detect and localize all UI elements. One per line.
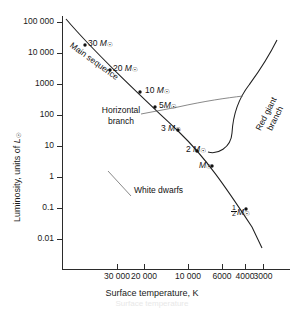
cut-off-caption: Surface temperature bbox=[0, 299, 304, 311]
mass-label-30-unit: M bbox=[100, 38, 107, 48]
mass-label-half-sub: ☉ bbox=[244, 210, 250, 217]
hr-diagram-figure: 100 000 10 000 1000 100 10 1 0.1 0.01 30… bbox=[0, 0, 304, 311]
mass-label-10-value: 10 bbox=[145, 85, 154, 95]
mass-label-5-sub: ☉ bbox=[171, 103, 177, 110]
mass-label-2-sub: ☉ bbox=[200, 147, 206, 154]
mass-label-10-unit: M bbox=[157, 85, 164, 95]
mass-label-1-sub: ☉ bbox=[206, 163, 212, 170]
horizontal-branch-leader bbox=[141, 96, 243, 114]
white-dwarfs-leader bbox=[108, 171, 131, 196]
mass-label-half: 12M☉ bbox=[231, 206, 250, 219]
horizontal-branch-label: Horizontal branch bbox=[92, 105, 150, 127]
mass-label-5: 5M☉ bbox=[159, 100, 177, 112]
horizontal-branch-label-line2: branch bbox=[92, 116, 150, 127]
mass-label-20-sub: ☉ bbox=[132, 66, 138, 73]
mass-label-30-sub: ☉ bbox=[107, 41, 113, 48]
mass-label-2: 2 M☉ bbox=[186, 144, 206, 156]
mass-label-5-unit: M bbox=[164, 100, 171, 110]
mass-label-30-value: 30 bbox=[88, 38, 97, 48]
mass-label-3-sub: ☉ bbox=[175, 126, 181, 133]
mass-label-30: 30 M☉ bbox=[88, 38, 113, 50]
data-point-5 bbox=[153, 105, 156, 108]
mass-label-10-sub: ☉ bbox=[164, 88, 170, 95]
horizontal-branch-label-line1: Horizontal bbox=[92, 105, 150, 116]
mass-label-half-unit: M bbox=[237, 207, 244, 217]
mass-label-3-value: 3 bbox=[161, 123, 166, 133]
white-dwarfs-label: White dwarfs bbox=[134, 185, 183, 195]
mass-label-1: M☉ bbox=[199, 160, 212, 172]
curves-layer bbox=[0, 0, 304, 311]
mass-label-3: 3 M☉ bbox=[161, 123, 181, 135]
mass-label-20-value: 20 bbox=[113, 63, 122, 73]
mass-label-2-value: 2 bbox=[186, 144, 191, 154]
mass-label-10: 10 M☉ bbox=[145, 85, 170, 97]
data-point-10 bbox=[138, 90, 141, 93]
mass-label-20-unit: M bbox=[125, 63, 132, 73]
mass-label-20: 20 M☉ bbox=[113, 63, 138, 75]
